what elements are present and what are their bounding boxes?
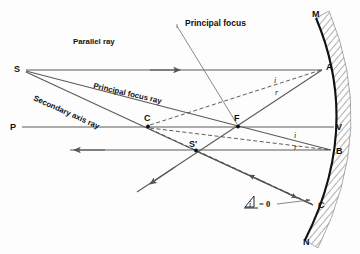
point-label-B: B bbox=[336, 146, 343, 156]
optics-diagram-svg: Parallel ray Principal focus ray Seconda… bbox=[0, 0, 360, 254]
point-label-N: N bbox=[303, 237, 310, 247]
normal-line-c-to-b bbox=[150, 128, 330, 150]
point-label-S-prime: S' bbox=[189, 139, 197, 149]
angle-zero-annotation bbox=[244, 196, 310, 208]
angle-label-i-at-b: i bbox=[294, 131, 296, 140]
point-label-C-centre: C bbox=[144, 113, 151, 123]
angle-zero-value: = 0 bbox=[259, 199, 270, 209]
label-principal-focus-ray: Principal focus ray bbox=[93, 81, 164, 106]
reflected-ray-from-a-arrowhead bbox=[150, 167, 175, 184]
label-secondary-axis-ray: Secondary axis ray bbox=[32, 94, 101, 131]
point-label-F: F bbox=[234, 113, 240, 123]
angle-zero-symbol-i: i bbox=[249, 200, 251, 209]
principal-focus-leader bbox=[177, 24, 237, 124]
point-label-V: V bbox=[336, 122, 342, 132]
angle-label-r-at-b: r bbox=[294, 143, 298, 152]
point-label-A: A bbox=[326, 62, 333, 72]
point-label-S: S bbox=[14, 64, 20, 74]
angle-label-r-at-a: r bbox=[275, 88, 279, 97]
ray-diagram-canvas: Parallel ray Principal focus ray Seconda… bbox=[0, 0, 360, 254]
point-label-P: P bbox=[10, 122, 16, 132]
point-label-M: M bbox=[312, 9, 320, 19]
label-parallel-ray: Parallel ray bbox=[73, 37, 115, 46]
angle-label-i-at-a: i bbox=[274, 76, 276, 85]
point-label-C-mirror: C bbox=[318, 200, 325, 210]
mirror-backing-hatch bbox=[305, 11, 351, 248]
label-principal-focus: Principal focus bbox=[185, 18, 246, 28]
